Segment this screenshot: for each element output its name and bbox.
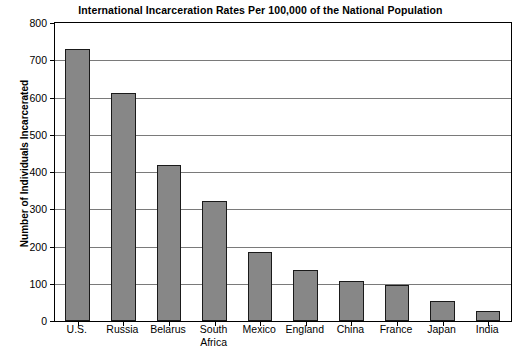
x-axis-tick-label-line: South [191, 323, 237, 336]
bar[interactable] [111, 93, 136, 321]
y-axis-tick-label: 300 [29, 209, 47, 210]
x-axis-tick-label-line: U.S. [54, 323, 100, 336]
x-axis-tick-label: SouthAfrica [191, 323, 237, 348]
x-axis-tick-label: England [282, 323, 328, 336]
x-axis-tick-label-line: Belarus [145, 323, 191, 336]
plot-area: 8007006005004003002001000 [54, 22, 512, 322]
y-axis-tick-label: 700 [29, 60, 47, 61]
x-axis-tick-label: Mexico [236, 323, 282, 336]
x-axis-tick-label-line: Russia [100, 323, 146, 336]
bar-slot [157, 23, 182, 321]
x-axis-tick-label-line: England [282, 323, 328, 336]
bar-slot [293, 23, 318, 321]
x-axis-tick-label-line: Japan [419, 323, 465, 336]
bars-layer [55, 23, 511, 321]
bar-slot [430, 23, 455, 321]
y-axis-tick-label: 600 [29, 97, 47, 98]
bar[interactable] [248, 252, 273, 321]
bar-chart: International Incarceration Rates Per 10… [0, 0, 521, 357]
y-axis-tick-label: 100 [29, 283, 47, 284]
bar[interactable] [202, 201, 227, 321]
y-axis-tick-label: 400 [29, 172, 47, 173]
x-axis-tick-label: India [464, 323, 510, 336]
bar[interactable] [65, 49, 90, 321]
bar[interactable] [157, 165, 182, 321]
y-axis-tick-label: 0 [41, 321, 47, 322]
x-axis-tick-label-line: Africa [191, 336, 237, 349]
x-axis-tick-label: Belarus [145, 323, 191, 336]
bar[interactable] [339, 281, 364, 321]
x-axis-tick-label-line: China [328, 323, 374, 336]
y-axis-tick-label: 500 [29, 134, 47, 135]
y-axis-title: Number of Individuals Incarcerated [19, 54, 30, 274]
bar[interactable] [385, 285, 410, 322]
bar-slot [385, 23, 410, 321]
bar[interactable] [293, 270, 318, 321]
x-axis-tick-label-line: India [464, 323, 510, 336]
bar-slot [111, 23, 136, 321]
x-axis-tick-label: Russia [100, 323, 146, 336]
x-axis-tick-label-line: Mexico [236, 323, 282, 336]
x-axis-labels: U.S.RussiaBelarusSouthAfricaMexicoEnglan… [54, 323, 510, 357]
x-axis-tick-label: U.S. [54, 323, 100, 336]
bar-slot [248, 23, 273, 321]
chart-title: International Incarceration Rates Per 10… [0, 4, 521, 16]
bar-slot [476, 23, 501, 321]
x-axis-tick-label-line: France [373, 323, 419, 336]
bar-slot [339, 23, 364, 321]
bar-slot [65, 23, 90, 321]
y-axis-tick-label: 200 [29, 246, 47, 247]
bar[interactable] [476, 311, 501, 321]
bar-slot [202, 23, 227, 321]
x-axis-tick-label: France [373, 323, 419, 336]
x-axis-tick-label: China [328, 323, 374, 336]
y-axis-tick [50, 321, 55, 322]
y-axis-tick-label: 800 [29, 23, 47, 24]
bar[interactable] [430, 301, 455, 321]
x-axis-tick-label: Japan [419, 323, 465, 336]
